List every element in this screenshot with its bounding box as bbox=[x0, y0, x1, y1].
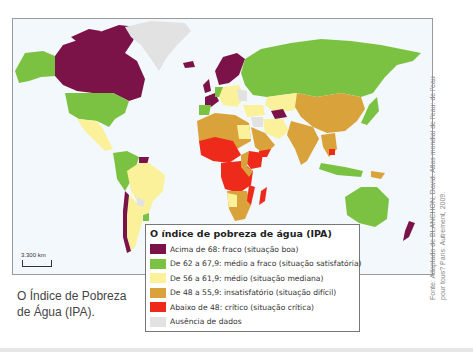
caption-line-1: O Índice de Pobreza bbox=[17, 288, 126, 304]
region-new-zealand bbox=[403, 221, 415, 241]
region-madagascar bbox=[259, 187, 267, 205]
scale-bar bbox=[22, 260, 52, 267]
legend-item-good: Acima de 68: fraco (situação boa) bbox=[150, 242, 355, 257]
source-line-2: pour tous? Paris: Autrement, 2009. bbox=[438, 10, 448, 300]
legend-item-difficult: De 48 a 55,9: insatisfatório (situação d… bbox=[150, 286, 355, 301]
legend-label: De 56 a 61,9: médio (situação mediana) bbox=[170, 274, 323, 283]
legend-item-satisfactory: De 62 a 67,9: médio a fraco (situação sa… bbox=[150, 257, 355, 272]
region-namibia-botswana bbox=[227, 193, 237, 207]
region-turkey-area bbox=[243, 105, 265, 117]
legend-label: De 62 a 67,9: médio a fraco (situação sa… bbox=[170, 259, 362, 268]
legend-swatch bbox=[150, 244, 166, 254]
legend-label: Abaixo de 48: crítico (situação crítica) bbox=[170, 303, 314, 312]
caption-line-2: de Água (IPA). bbox=[17, 304, 126, 320]
legend-item-medium: De 56 a 61,9: médio (situação mediana) bbox=[150, 271, 355, 286]
legend-swatch bbox=[150, 259, 166, 269]
legend-swatch bbox=[150, 302, 166, 312]
legend: O índice de pobreza de água (IPA) Acima … bbox=[145, 224, 360, 332]
region-australia bbox=[345, 187, 389, 227]
region-india bbox=[287, 121, 319, 165]
legend-item-nodata: Ausência de dados bbox=[150, 315, 355, 330]
region-png bbox=[371, 171, 385, 179]
source-credit: Fonte: Adaptado de BLANCHON, David. Atla… bbox=[428, 10, 448, 300]
region-central-africa bbox=[221, 161, 253, 193]
region-uk bbox=[203, 79, 211, 93]
legend-label: De 48 a 55,9: insatisfatório (situação d… bbox=[170, 288, 336, 297]
region-nordic bbox=[215, 53, 245, 85]
legend-swatch bbox=[150, 273, 166, 283]
legend-title: O índice de pobreza de água (IPA) bbox=[150, 228, 355, 239]
region-middle-east-nodata bbox=[251, 117, 263, 127]
region-japan bbox=[361, 97, 379, 125]
region-egypt bbox=[237, 125, 251, 139]
source-line-1: Fonte: Adaptado de BLANCHON, David. Atla… bbox=[428, 10, 438, 300]
figure-caption: O Índice de Pobreza de Água (IPA). bbox=[17, 288, 126, 320]
legend-swatch bbox=[150, 288, 166, 298]
region-indonesia bbox=[319, 163, 363, 177]
legend-item-critical: Abaixo de 48: crítico (situação crítica) bbox=[150, 300, 355, 315]
region-alaska bbox=[15, 51, 55, 83]
region-cambodia bbox=[329, 149, 335, 155]
legend-label: Acima de 68: fraco (situação boa) bbox=[170, 245, 298, 254]
legend-swatch bbox=[150, 317, 166, 327]
legend-label: Ausência de dados bbox=[170, 317, 242, 326]
region-russia bbox=[241, 39, 421, 97]
region-spain bbox=[199, 105, 211, 115]
region-mozambique bbox=[247, 185, 255, 205]
bottom-divider bbox=[0, 348, 473, 352]
region-iceland bbox=[183, 61, 195, 68]
scale-label: 3.300 km bbox=[21, 252, 46, 258]
